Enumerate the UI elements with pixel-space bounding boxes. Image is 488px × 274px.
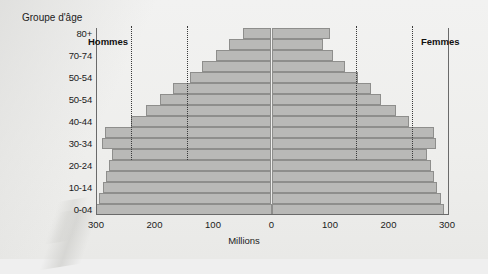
bar-hommes-75-79 bbox=[229, 39, 271, 50]
x-tick-200-left: 200 bbox=[147, 219, 163, 230]
bar-hommes-35-39 bbox=[105, 127, 272, 138]
bar-femmes-75-79 bbox=[272, 39, 323, 50]
x-axis-tick-labels: 3002001000100200300 bbox=[96, 219, 447, 233]
guide-line bbox=[187, 26, 188, 160]
bar-hommes-55-59 bbox=[173, 83, 271, 94]
bar-hommes-25-29 bbox=[112, 149, 271, 160]
bar-femmes-60-64 bbox=[272, 72, 359, 83]
guide-line bbox=[131, 26, 132, 160]
pyramid-row bbox=[96, 171, 447, 182]
bar-hommes-65-69 bbox=[202, 61, 271, 72]
x-axis-title: Millions bbox=[0, 235, 488, 246]
bar-femmes-10-14 bbox=[272, 182, 438, 193]
pyramid-row bbox=[96, 105, 447, 116]
x-tick-100-right: 100 bbox=[322, 219, 338, 230]
bar-femmes-05-09 bbox=[272, 193, 442, 204]
pyramid-row bbox=[96, 61, 447, 72]
pyramid-row bbox=[96, 116, 447, 127]
x-tick-100-left: 100 bbox=[205, 219, 221, 230]
bar-hommes-20-24 bbox=[109, 160, 272, 171]
y-tick-70-74: 70-74 bbox=[69, 50, 92, 61]
bar-hommes-45-49 bbox=[146, 105, 272, 116]
population-pyramid-plot bbox=[96, 28, 447, 215]
bar-hommes-05-09 bbox=[99, 193, 272, 204]
y-axis-tick-labels: 0-0410-1420-2430-3440-4450-5450-5470-748… bbox=[0, 28, 92, 215]
series-label-femmes: Femmes bbox=[421, 36, 460, 47]
bar-hommes-15-19 bbox=[106, 171, 272, 182]
pyramid-row bbox=[96, 193, 447, 204]
y-tick-10-14: 10-14 bbox=[69, 182, 92, 193]
x-tick-0-center: 0 bbox=[269, 219, 274, 230]
bar-femmes-40-44 bbox=[272, 116, 409, 127]
y-tick-40-44: 40-44 bbox=[69, 116, 92, 127]
bar-femmes-70-74 bbox=[272, 50, 333, 61]
bar-femmes-65-69 bbox=[272, 61, 345, 72]
bar-hommes-40-44 bbox=[131, 116, 271, 127]
series-label-hommes: Hommes bbox=[88, 36, 128, 47]
y-tick-50-54: 50-54 bbox=[69, 94, 92, 105]
pyramid-row bbox=[96, 182, 447, 193]
bar-femmes-25-29 bbox=[272, 149, 427, 160]
axis-right bbox=[448, 28, 449, 215]
bar-femmes-80+ bbox=[272, 28, 331, 39]
bar-femmes-50-54 bbox=[272, 94, 382, 105]
bar-femmes-35-39 bbox=[272, 127, 435, 138]
pyramid-row bbox=[96, 94, 447, 105]
axis-bottom bbox=[96, 214, 449, 215]
guide-line bbox=[356, 26, 357, 160]
pyramid-row bbox=[96, 28, 447, 39]
y-axis-title: Groupe d'âge bbox=[22, 12, 82, 23]
pyramid-row bbox=[96, 50, 447, 61]
y-tick-30-34: 30-34 bbox=[69, 138, 92, 149]
bar-hommes-10-14 bbox=[103, 182, 271, 193]
pyramid-row bbox=[96, 72, 447, 83]
x-tick-200-right: 200 bbox=[381, 219, 397, 230]
pyramid-row bbox=[96, 138, 447, 149]
bar-femmes-45-49 bbox=[272, 105, 396, 116]
bar-hommes-80+ bbox=[243, 28, 271, 39]
x-tick-300-right: 300 bbox=[439, 219, 455, 230]
pyramid-row bbox=[96, 127, 447, 138]
bar-femmes-20-24 bbox=[272, 160, 431, 171]
y-tick-20-24: 20-24 bbox=[69, 160, 92, 171]
y-tick-0-04: 0-04 bbox=[74, 204, 92, 215]
bar-hommes-50-54 bbox=[160, 94, 271, 105]
bar-femmes-15-19 bbox=[272, 171, 435, 182]
pyramid-row bbox=[96, 149, 447, 160]
bar-hommes-70-74 bbox=[216, 50, 272, 61]
bar-hommes-60-64 bbox=[190, 72, 272, 83]
y-tick-60-64: 50-54 bbox=[69, 72, 92, 83]
axis-left bbox=[96, 28, 97, 215]
pyramid-row bbox=[96, 160, 447, 171]
pyramid-row bbox=[96, 83, 447, 94]
guide-line bbox=[412, 26, 413, 160]
pyramid-row bbox=[96, 39, 447, 50]
x-tick-300-left: 300 bbox=[88, 219, 104, 230]
